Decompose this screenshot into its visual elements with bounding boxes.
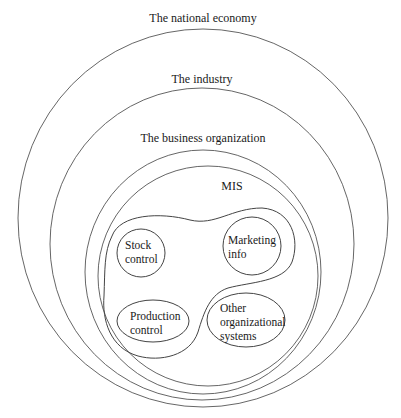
mis-label: MIS xyxy=(221,179,242,193)
marketing-info-circle xyxy=(223,217,281,275)
mis-context-diagram: The national economy The industry The bu… xyxy=(0,0,401,418)
production-control-label-line1: Production xyxy=(130,310,181,322)
marketing-info-label-line2: info xyxy=(228,248,247,260)
marketing-info-label-line1: Marketing xyxy=(228,234,276,247)
national-economy-label: The national economy xyxy=(149,11,256,25)
other-systems-label-line1: Other xyxy=(220,302,246,314)
stock-control-label-line1: Stock xyxy=(125,239,151,251)
business-organization-circle xyxy=(85,150,321,394)
industry-label: The industry xyxy=(172,72,233,86)
production-control-label-line2: control xyxy=(130,324,163,336)
stock-control-label-line2: control xyxy=(125,253,158,265)
other-systems-label-line3: systems xyxy=(220,330,257,343)
other-systems-label-line2: organizational xyxy=(220,316,286,329)
business-organization-label: The business organization xyxy=(140,131,265,145)
